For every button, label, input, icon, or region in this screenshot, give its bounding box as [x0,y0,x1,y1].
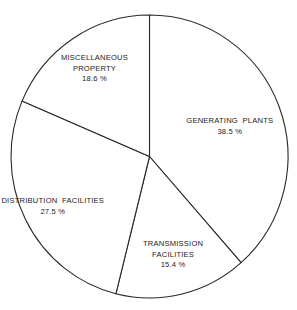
slice-name-label: PROPERTY [73,64,116,73]
slice-name-label: FACILITIES [152,250,194,259]
slice-value-label: 27.5 % [40,207,65,216]
slice-name-label: DISTRIBUTION FACILITIES [1,196,104,205]
slice-value-label: 18.6 % [82,74,107,83]
slice-value-label: 15.4 % [161,260,186,269]
slice-value-label: 38.5 % [217,127,242,136]
slice-name-label: MISCELLANEOUS [61,53,128,62]
slice-name-label: GENERATING PLANTS [186,116,273,125]
slice-name-label: TRANSMISSION [143,239,203,248]
pie-slices [11,15,288,298]
pie-chart: GENERATING PLANTS38.5 %TRANSMISSIONFACIL… [0,0,297,310]
